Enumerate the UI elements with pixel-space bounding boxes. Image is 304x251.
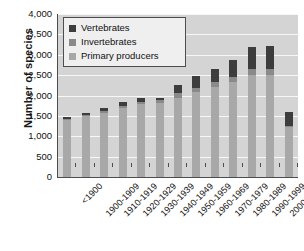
chart-legend: VertebratesInvertebratesPrimary producer…	[63, 17, 186, 67]
x-axis-tick-label: <1900	[80, 181, 105, 206]
bar-segment[interactable]	[248, 69, 256, 75]
x-axis-tick-mark	[149, 163, 150, 167]
x-axis-tick-mark	[205, 163, 206, 167]
bar-segment[interactable]	[119, 108, 127, 177]
y-axis-tick-label: 0	[12, 172, 52, 182]
x-axis-tick-mark	[94, 163, 95, 167]
bar-segment[interactable]	[192, 76, 200, 88]
bar-group[interactable]	[248, 14, 256, 177]
bar-segment[interactable]	[192, 88, 200, 92]
bar-segment[interactable]	[248, 75, 256, 177]
x-axis-tick-labels: <19001900-19091910-19191920-19291930-193…	[57, 181, 304, 251]
bar-segment[interactable]	[82, 115, 90, 116]
y-axis-tick-label: 3,000	[12, 50, 52, 60]
x-axis-tick-mark	[242, 163, 243, 167]
x-axis-tick-mark	[131, 163, 132, 167]
bar-segment[interactable]	[266, 69, 274, 75]
legend-item-label: Primary producers	[81, 51, 159, 61]
y-axis-tick-label: 500	[12, 152, 52, 162]
bar-segment[interactable]	[192, 92, 200, 177]
legend-swatch-icon	[69, 25, 76, 32]
x-axis-tick-mark	[260, 163, 261, 167]
bar-group[interactable]	[285, 14, 293, 177]
bar-segment[interactable]	[174, 98, 182, 177]
bar-segment[interactable]	[82, 116, 90, 177]
bar-segment[interactable]	[137, 102, 145, 104]
bar-segment[interactable]	[119, 106, 127, 108]
bar-segment[interactable]	[211, 87, 219, 177]
bar-group[interactable]	[211, 14, 219, 177]
x-axis-tick-mark	[75, 163, 76, 167]
legend-swatch-icon	[69, 53, 76, 60]
bar-segment[interactable]	[229, 82, 237, 177]
bar-segment[interactable]	[156, 98, 164, 100]
x-axis-tick-mark	[57, 163, 58, 167]
legend-item[interactable]: Vertebrates	[69, 21, 181, 35]
legend-item-label: Vertebrates	[81, 23, 130, 33]
bar-segment[interactable]	[248, 47, 256, 69]
bar-segment[interactable]	[100, 108, 108, 111]
bar-segment[interactable]	[100, 111, 108, 113]
x-axis-tick-mark	[297, 163, 298, 167]
x-axis-tick-mark	[223, 163, 224, 167]
bar-segment[interactable]	[211, 82, 219, 87]
bar-segment[interactable]	[285, 127, 293, 177]
bar-segment[interactable]	[229, 77, 237, 82]
bar-group[interactable]	[266, 14, 274, 177]
bar-group[interactable]	[192, 14, 200, 177]
bar-segment[interactable]	[137, 104, 145, 177]
chart-figure: Number of species 05001,0001,5002,0002,5…	[0, 0, 304, 251]
bar-segment[interactable]	[285, 112, 293, 126]
y-axis-tick-label: 1,500	[12, 111, 52, 121]
bar-segment[interactable]	[63, 119, 71, 120]
y-axis-tick-label: 1,000	[12, 131, 52, 141]
x-axis-tick-mark	[112, 163, 113, 167]
x-axis-tick-mark	[168, 163, 169, 167]
y-axis-tick-label: 4,000	[12, 9, 52, 19]
bar-segment[interactable]	[156, 100, 164, 103]
legend-item-label: Invertebrates	[81, 37, 136, 47]
bar-segment[interactable]	[82, 113, 90, 115]
bar-segment[interactable]	[229, 60, 237, 77]
y-axis-tick-label: 2,000	[12, 91, 52, 101]
x-axis-tick-mark	[186, 163, 187, 167]
bar-group[interactable]	[229, 14, 237, 177]
bar-segment[interactable]	[174, 85, 182, 94]
bar-segment[interactable]	[174, 93, 182, 97]
bar-segment[interactable]	[211, 69, 219, 82]
legend-item[interactable]: Invertebrates	[69, 35, 181, 49]
x-axis-tick-mark	[279, 163, 280, 167]
bar-segment[interactable]	[63, 120, 71, 177]
y-axis-tick-label: 3,500	[12, 29, 52, 39]
y-axis-tick-labels: 05001,0001,5002,0002,5003,0003,5004,000	[12, 9, 52, 181]
bar-segment[interactable]	[285, 126, 293, 127]
bar-segment[interactable]	[266, 46, 274, 69]
legend-item[interactable]: Primary producers	[69, 49, 181, 63]
bar-segment[interactable]	[137, 98, 145, 102]
bar-segment[interactable]	[119, 102, 127, 106]
bar-segment[interactable]	[266, 75, 274, 177]
legend-swatch-icon	[69, 39, 76, 46]
bar-segment[interactable]	[156, 103, 164, 177]
bar-segment[interactable]	[63, 117, 71, 119]
bar-segment[interactable]	[100, 113, 108, 177]
y-axis-tick-label: 2,500	[12, 70, 52, 80]
